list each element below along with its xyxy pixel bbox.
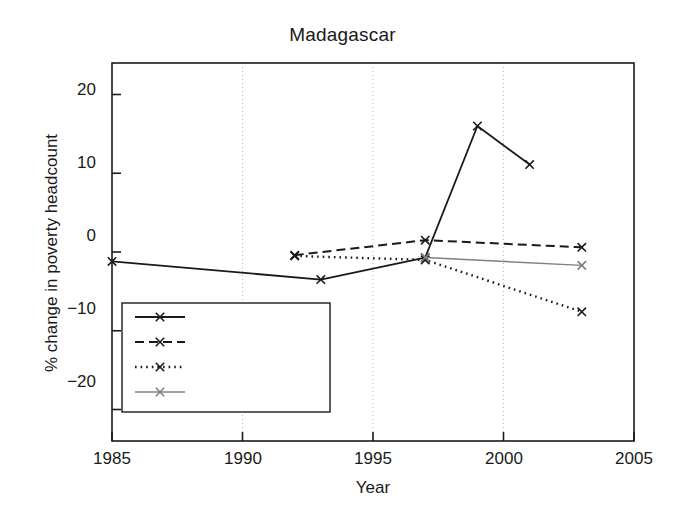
series-line <box>295 256 582 312</box>
chart-figure: Madagascar % change in poverty headcount… <box>0 0 685 512</box>
series-education <box>291 236 587 259</box>
plot-area <box>0 0 685 512</box>
series-line <box>295 240 582 255</box>
data-point-marker <box>525 160 533 168</box>
series-line <box>425 258 582 266</box>
legend-box <box>122 303 330 412</box>
series-line <box>112 126 530 280</box>
data-series-layer <box>108 122 586 316</box>
series-health-children <box>291 252 587 316</box>
legend-frame <box>122 303 330 412</box>
data-point-marker <box>291 252 299 260</box>
data-point-marker <box>473 122 481 130</box>
